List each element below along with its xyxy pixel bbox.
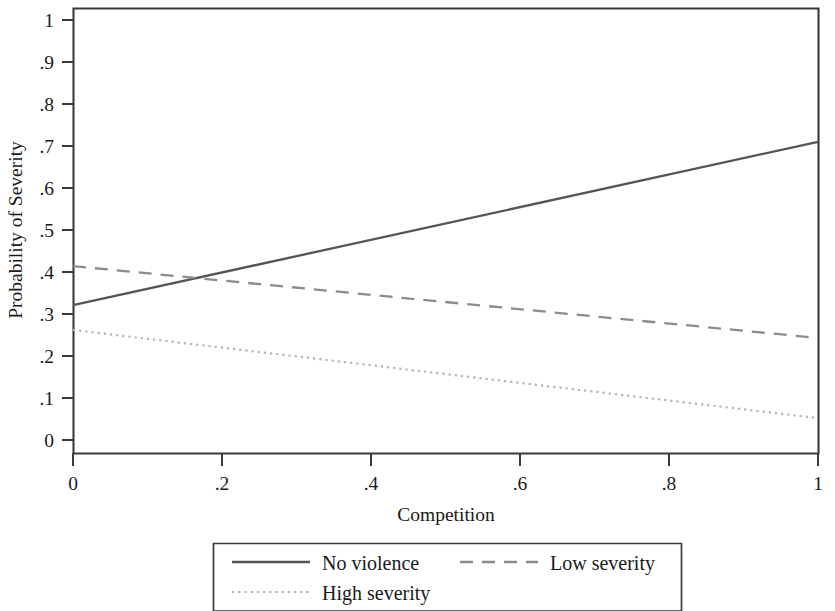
y-tick-label: 1 xyxy=(44,10,54,31)
x-tick-label: .4 xyxy=(364,473,379,494)
y-tick-label: .3 xyxy=(39,304,54,325)
legend-label: High severity xyxy=(322,582,430,605)
y-tick-label: .5 xyxy=(39,220,54,241)
legend-item-low-severity[interactable]: Low severity xyxy=(460,552,655,575)
plot-frame xyxy=(74,9,819,454)
x-axis-tick-labels: 0 .2 .4 .6 .8 1 xyxy=(68,473,823,494)
series-high-severity xyxy=(73,330,818,418)
series-low-severity xyxy=(73,266,818,338)
y-tick-label: .4 xyxy=(39,262,54,283)
x-tick-label: .8 xyxy=(662,473,677,494)
x-tick-label: .2 xyxy=(215,473,230,494)
x-axis-title: Competition xyxy=(397,504,495,525)
chart-legend: No violence Low severity High severity xyxy=(214,544,682,611)
legend-item-high-severity[interactable]: High severity xyxy=(232,582,430,605)
figure-container: 1 .9 .8 .7 .6 .5 .4 .3 .2 .1 0 0 .2 .4 .… xyxy=(0,0,835,611)
series-no-violence xyxy=(73,142,818,305)
y-tick-label: .6 xyxy=(39,178,54,199)
y-axis-ticks xyxy=(62,20,73,440)
y-tick-label: 0 xyxy=(44,430,54,451)
y-axis-title: Probability of Severity xyxy=(5,141,26,319)
y-tick-label: .7 xyxy=(39,136,54,157)
legend-label: No violence xyxy=(322,552,419,574)
x-tick-label: 1 xyxy=(813,473,823,494)
x-axis-ticks xyxy=(73,453,818,466)
x-tick-label: .6 xyxy=(513,473,528,494)
y-tick-label: .9 xyxy=(39,52,54,73)
y-tick-label: .8 xyxy=(39,94,54,115)
line-chart: 1 .9 .8 .7 .6 .5 .4 .3 .2 .1 0 0 .2 .4 .… xyxy=(0,0,835,611)
y-tick-label: .1 xyxy=(39,388,54,409)
y-axis-tick-labels: 1 .9 .8 .7 .6 .5 .4 .3 .2 .1 0 xyxy=(39,10,54,451)
y-tick-label: .2 xyxy=(39,346,54,367)
legend-label: Low severity xyxy=(550,552,655,575)
x-tick-label: 0 xyxy=(68,473,78,494)
legend-item-no-violence[interactable]: No violence xyxy=(232,552,419,574)
